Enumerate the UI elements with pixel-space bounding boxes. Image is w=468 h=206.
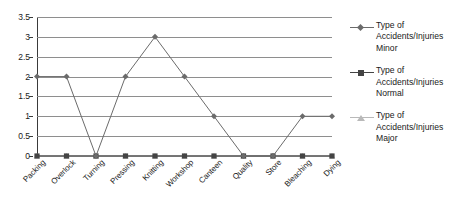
y-tick-mark	[29, 96, 33, 97]
x-tick-label: Turning	[82, 158, 107, 183]
plot-area	[37, 17, 332, 156]
legend-item-normal[interactable]: Type of Accidents/Injuries Normal	[350, 65, 468, 99]
legend-label-line1: Type of	[376, 110, 468, 121]
y-tick-mark	[29, 136, 33, 137]
x-axis-tick-labels: PackingOverlockTurningPressingKnittingWo…	[37, 158, 332, 206]
legend-label-line3: Minor	[376, 43, 468, 54]
x-tick-label: Overlock	[49, 158, 77, 186]
legend-marker-normal	[350, 69, 374, 76]
y-tick-mark	[29, 156, 33, 157]
y-tick-mark	[29, 77, 33, 78]
y-tick-mark	[29, 37, 33, 38]
series-container	[37, 17, 332, 156]
triangle-icon	[357, 115, 365, 121]
legend-marker-minor	[350, 24, 374, 31]
legend-label-line2: Accidents/Injuries	[376, 77, 468, 88]
legend-label-line3: Major	[376, 133, 468, 144]
x-tick-label: Canteen	[197, 158, 224, 185]
y-tick-mark	[29, 116, 33, 117]
y-axis-tick-labels: 00.511.522.533.5	[0, 17, 33, 156]
x-tick-label: Bleaching	[282, 158, 313, 189]
chart-legend: Type of Accidents/Injuries Minor Type of…	[350, 20, 468, 156]
x-tick-label: Packing	[21, 158, 47, 184]
x-tick-label: Workshop	[164, 158, 195, 189]
x-tick-label: Store	[264, 158, 284, 178]
legend-label-line1: Type of	[376, 65, 468, 76]
legend-label-line3: Normal	[376, 88, 468, 99]
square-icon	[358, 70, 364, 76]
y-tick-mark	[29, 17, 33, 18]
x-tick-label: Quality	[230, 158, 253, 181]
x-tick-label: Knitting	[141, 158, 166, 183]
line-chart: 00.511.522.533.5 PackingOverlockTurningP…	[0, 0, 468, 206]
series-diamond	[34, 34, 335, 159]
y-tick-mark	[29, 57, 33, 58]
legend-label-line2: Accidents/Injuries	[376, 31, 468, 42]
legend-item-minor[interactable]: Type of Accidents/Injuries Minor	[350, 20, 468, 54]
x-tick-label: Pressing	[108, 158, 136, 186]
legend-label-line2: Accidents/Injuries	[376, 122, 468, 133]
legend-marker-major	[350, 114, 374, 121]
legend-label-line1: Type of	[376, 20, 468, 31]
x-tick-label: Dying	[322, 158, 342, 178]
diamond-icon	[357, 24, 364, 31]
legend-item-major[interactable]: Type of Accidents/Injuries Major	[350, 110, 468, 144]
